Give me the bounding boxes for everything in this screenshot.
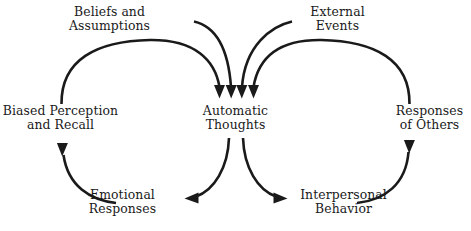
node-label-line: Automatic (203, 104, 268, 118)
node-label-line: Thoughts (203, 118, 268, 132)
node-beliefs-and-assumptions: Beliefs and Assumptions (69, 5, 150, 33)
node-automatic-thoughts: Automatic Thoughts (203, 104, 268, 132)
node-external-events: External Events (310, 5, 364, 33)
node-label-line: Beliefs and (69, 5, 150, 19)
edge-biased-to-automatic (61, 40, 225, 104)
edge-automatic-to-emotional (185, 138, 230, 204)
node-label-line: Responses (396, 104, 463, 118)
node-label-line: Assumptions (69, 19, 150, 33)
edge-automatic-to-interpersonal (243, 138, 288, 204)
node-label-line: Biased Perception (3, 104, 118, 118)
node-emotional-responses: Emotional Responses (89, 188, 156, 216)
node-label-line: Behavior (300, 202, 387, 216)
node-interpersonal-behavior: Interpersonal Behavior (300, 188, 387, 216)
node-label-line: of Others (396, 118, 463, 132)
cognitive-model-diagram: .edge { fill: none; stroke: #1a1a1a; str… (0, 0, 471, 231)
node-label-line: Events (310, 19, 364, 33)
node-responses-of-others: Responses of Others (396, 104, 463, 132)
node-label-line: Interpersonal (300, 188, 387, 202)
node-label-line: and Recall (3, 118, 118, 132)
node-label-line: Emotional (89, 188, 156, 202)
node-biased-perception-and-recall: Biased Perception and Recall (3, 104, 118, 132)
node-label-line: Responses (89, 202, 156, 216)
node-label-line: External (310, 5, 364, 19)
edge-responses-to-automatic (248, 40, 410, 104)
